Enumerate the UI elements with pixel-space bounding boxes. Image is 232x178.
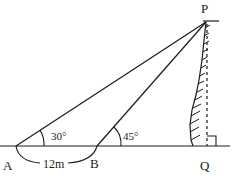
line-AP [16,22,206,146]
label-angle-A: 30° [51,130,66,142]
elevation-diagram: P A B Q 12m 30° 45° [0,0,232,178]
right-angle-marker [207,136,216,146]
label-angle-B: 45° [123,130,138,142]
distance-brace-left [16,146,40,163]
angle-arc-A [40,130,44,146]
label-B: B [90,156,99,171]
label-distance-AB: 12m [43,157,65,171]
angle-arc-B [114,127,121,146]
label-Q: Q [200,158,210,173]
label-P: P [201,1,208,16]
label-A: A [3,158,13,173]
